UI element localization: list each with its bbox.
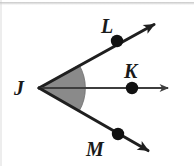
point-dot-m [112, 128, 124, 140]
point-dot-k [126, 82, 138, 94]
scan-edge-artifact-top [0, 2, 194, 5]
geometry-figure: J L K M [0, 0, 194, 166]
point-label-j: J [14, 78, 24, 98]
point-label-k: K [124, 61, 137, 81]
point-label-l: L [101, 16, 113, 36]
point-label-m: M [86, 139, 104, 159]
